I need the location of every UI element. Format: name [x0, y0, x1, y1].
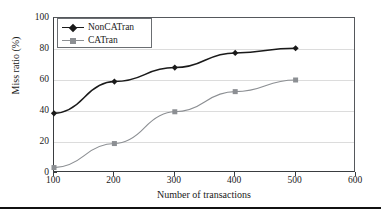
x-tick-label-600: 600 — [335, 175, 375, 185]
data-point-noncatran-100 — [51, 110, 57, 116]
legend-entry-catran: CATran — [62, 34, 147, 47]
x-tick-label-100: 100 — [33, 175, 73, 185]
x-axis-title: Number of transactions — [53, 189, 355, 200]
series-line-noncatran — [54, 48, 296, 113]
y-tick-label-100: 100 — [23, 13, 49, 23]
data-point-noncatran-500 — [293, 45, 299, 51]
y-tick-label-20: 20 — [23, 137, 49, 147]
legend-swatch-diamond-icon — [62, 22, 84, 33]
data-point-noncatran-200 — [111, 78, 117, 84]
diamond-marker-icon — [69, 23, 77, 31]
data-point-noncatran-400 — [232, 50, 238, 56]
square-marker-icon — [70, 38, 76, 44]
y-tick-label-40: 40 — [23, 106, 49, 116]
x-tick-label-400: 400 — [214, 175, 254, 185]
legend-entry-noncatran: NonCATran — [62, 21, 147, 34]
series-line-catran — [54, 80, 296, 168]
figure-canvas: Miss ratio (%) 020406080100 100200300400… — [0, 0, 381, 217]
x-tick-label-300: 300 — [154, 175, 194, 185]
x-tick-label-500: 500 — [275, 175, 315, 185]
legend-label: NonCATran — [84, 22, 134, 33]
page-divider-rule — [0, 207, 381, 209]
data-point-catran-500 — [293, 78, 298, 83]
x-tick-label-200: 200 — [93, 175, 133, 185]
y-tick-label-60: 60 — [23, 75, 49, 85]
data-point-catran-200 — [112, 141, 117, 146]
y-axis-tick-labels: 020406080100 — [20, 17, 49, 172]
x-axis-tick-labels: 100200300400500600 — [53, 175, 355, 189]
y-axis-title: Miss ratio (%) — [10, 21, 21, 111]
data-point-catran-300 — [172, 109, 177, 114]
data-point-catran-100 — [52, 165, 57, 170]
legend-swatch-square-icon — [62, 35, 84, 46]
chart-legend: NonCATranCATran — [57, 18, 152, 48]
data-point-catran-400 — [233, 89, 238, 94]
legend-label: CATran — [84, 35, 118, 46]
data-point-noncatran-300 — [172, 65, 178, 71]
y-tick-label-80: 80 — [23, 44, 49, 54]
